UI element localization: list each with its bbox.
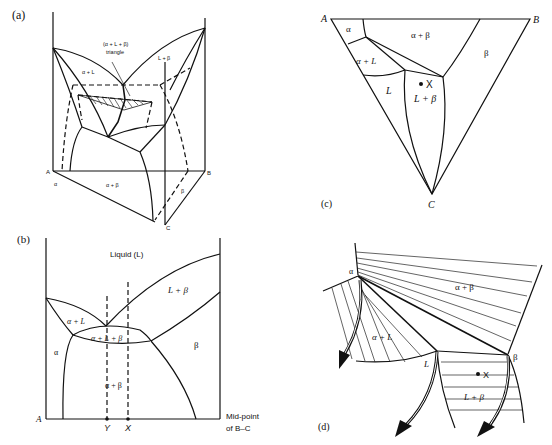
region-alpha-beta: α + β	[411, 30, 430, 40]
region-beta: β	[194, 340, 199, 350]
region-L: L	[385, 85, 392, 96]
corner-B: B	[207, 170, 211, 176]
axis-right-label-1: Mid-point	[226, 412, 260, 421]
region-alpha: α	[346, 24, 351, 34]
marker-Y: Y	[104, 423, 111, 433]
ternary-phase-diagram-figure: (a)	[0, 0, 552, 445]
region-alpha-L: α + L	[82, 69, 95, 75]
region-alpha-L: α + L	[372, 332, 392, 342]
point-X-marker	[476, 372, 480, 376]
region-alpha-L: α + L	[356, 56, 376, 66]
corner-C: C	[428, 199, 435, 210]
marker-X: X	[124, 423, 132, 433]
corner-B: B	[533, 14, 539, 25]
region-beta: β	[484, 48, 489, 58]
point-X-label: X	[426, 79, 433, 90]
triangle-label-1: (α + L + β)	[103, 41, 129, 47]
panel-c-isothermal-section: α α + β β α + L L L + β X A B C (c)	[320, 13, 539, 210]
axis-left-A: A	[35, 414, 42, 424]
region-L-beta: L + β	[413, 93, 436, 104]
arrow-L-trajectory	[395, 352, 437, 437]
region-alpha-beta: α + β	[106, 182, 119, 188]
panel-b-vertical-section: (b) Liquid (L) L + β α + L α + L + β α β…	[17, 233, 260, 433]
triangle-label-2: triangle	[106, 49, 124, 55]
axis-right-label-2: of B–C	[226, 424, 251, 433]
region-beta: β	[181, 188, 184, 194]
vertex-L: L	[423, 359, 429, 369]
region-L-beta: L + β	[158, 55, 170, 61]
region-alpha-beta: α + β	[105, 381, 122, 390]
region-liquid: Liquid (L)	[110, 250, 144, 259]
point-X-label: X	[483, 370, 489, 380]
point-X-marker	[419, 82, 423, 86]
region-alpha-L-beta: α + L + β	[91, 334, 122, 343]
region-alpha-L: α + L	[67, 317, 86, 326]
corner-C: C	[166, 225, 171, 231]
panel-d-label: (d)	[318, 421, 330, 433]
region-L-beta: L + β	[167, 285, 188, 295]
region-alpha: α	[54, 181, 58, 187]
panel-a-label: (a)	[12, 8, 25, 22]
panel-d-tie-triangle-detail: α α + β α + L L β X L + β (d)	[318, 243, 542, 437]
corner-A: A	[320, 13, 328, 24]
corner-A: A	[46, 169, 50, 175]
panel-b-label: (b)	[17, 233, 30, 246]
panel-c-label: (c)	[321, 198, 332, 210]
region-alpha-beta: α + β	[455, 282, 474, 292]
region-L-beta: L + β	[463, 392, 484, 402]
panel-a-space-model: (a)	[12, 8, 211, 231]
vertex-beta: β	[513, 352, 518, 362]
vertex-alpha: α	[349, 267, 354, 276]
region-alpha: α	[54, 348, 59, 357]
